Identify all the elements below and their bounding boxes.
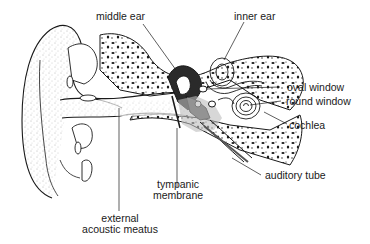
middle-ear-cavity: [178, 96, 222, 132]
label-tympanic-membrane: tympanic membrane: [148, 179, 208, 201]
round-window: [209, 101, 216, 107]
label-meatus-line2: acoustic meatus: [72, 224, 168, 235]
cochlea-spiral: [218, 93, 260, 119]
label-middle-ear: middle ear: [96, 11, 145, 22]
label-cochlea: cochlea: [289, 120, 325, 131]
oval-window: [199, 86, 207, 92]
label-round-window: round window: [286, 96, 351, 107]
label-auditory-tube: auditory tube: [265, 170, 326, 181]
label-inner-ear: inner ear: [234, 11, 275, 22]
ear-diagram: middle ear inner ear oval window round w…: [0, 0, 370, 244]
label-tympanic-line2: membrane: [148, 190, 208, 201]
label-external-acoustic-meatus: external acoustic meatus: [72, 213, 168, 235]
ear-canal-shading: [62, 100, 186, 116]
label-oval-window: oval window: [287, 82, 344, 93]
